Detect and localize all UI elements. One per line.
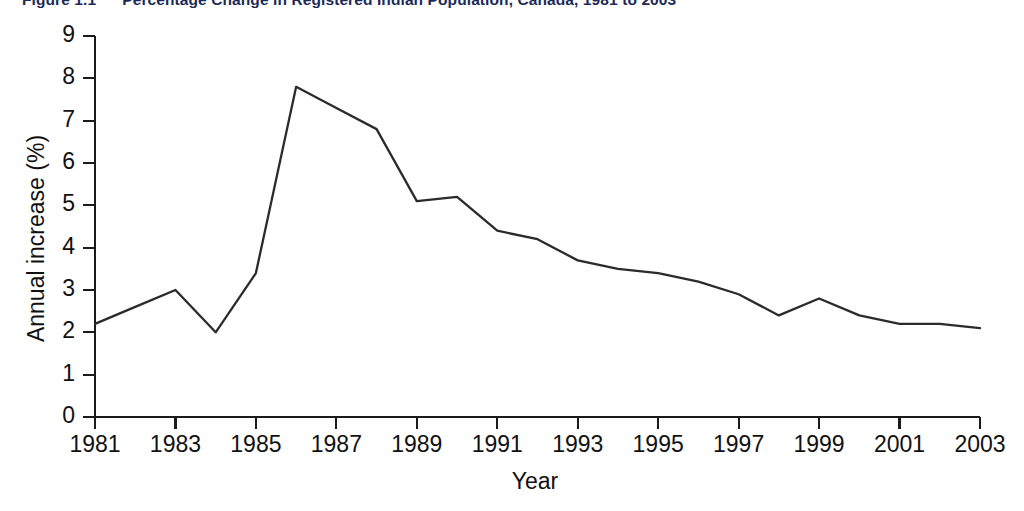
x-axis-title: Year xyxy=(435,468,635,495)
x-axis-tick-label: 1997 xyxy=(694,431,784,458)
x-axis-tick-label: 1995 xyxy=(613,431,703,458)
x-axis-tick-label: 2003 xyxy=(935,431,1024,458)
x-axis-tick-label: 1983 xyxy=(130,431,220,458)
y-axis-ticks xyxy=(83,36,95,417)
x-axis-tick-label: 1985 xyxy=(211,431,301,458)
y-axis-title: Annual increase (%) xyxy=(23,109,50,369)
data-series-line xyxy=(95,87,980,333)
x-axis-ticks xyxy=(95,417,980,429)
x-axis-tick-label: 1999 xyxy=(774,431,864,458)
y-axis-tick-label: 8 xyxy=(35,63,75,90)
x-axis-tick-label: 1993 xyxy=(533,431,623,458)
y-axis-tick-label: 0 xyxy=(35,402,75,429)
x-axis-tick-label: 1989 xyxy=(372,431,462,458)
x-axis-tick-label: 1991 xyxy=(452,431,542,458)
x-axis-tick-label: 2001 xyxy=(855,431,945,458)
line-chart: 0123456789 19811983198519871989199119931… xyxy=(0,0,1024,511)
x-axis-tick-label: 1987 xyxy=(291,431,381,458)
x-axis-tick-label: 1981 xyxy=(50,431,140,458)
axes xyxy=(95,36,980,417)
y-axis-tick-label: 9 xyxy=(35,21,75,48)
